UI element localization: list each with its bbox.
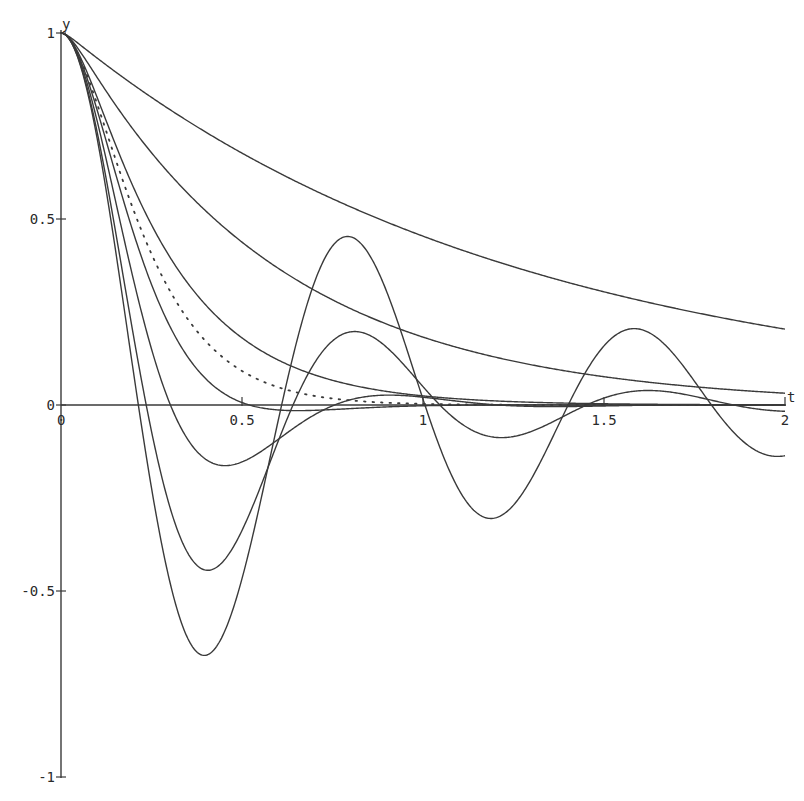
y-ticks: 10.50-0.5-1 [21, 25, 66, 785]
y-tick-label: 0 [47, 397, 55, 413]
series-line [61, 33, 785, 405]
x-tick-label: 1 [419, 412, 427, 428]
series-line [61, 33, 785, 393]
x-tick-label: 1.5 [591, 412, 616, 428]
x-tick-label: 2 [781, 412, 789, 428]
x-axis-label: t [787, 389, 795, 405]
y-tick-label: 0.5 [30, 211, 55, 227]
x-tick-label: 0.5 [229, 412, 254, 428]
y-tick-label: -1 [38, 769, 55, 785]
series-line [61, 33, 785, 655]
damped-oscillation-chart: t y 00.511.52 10.50-0.5-1 [0, 0, 804, 801]
curves [61, 33, 785, 655]
series-line [61, 33, 785, 570]
series-line [61, 33, 785, 329]
series-line [61, 33, 785, 411]
x-tick-label: 0 [57, 412, 65, 428]
series-line [61, 33, 785, 405]
y-axis-label: y [62, 16, 70, 32]
y-tick-label: 1 [47, 25, 55, 41]
y-tick-label: -0.5 [21, 583, 55, 599]
